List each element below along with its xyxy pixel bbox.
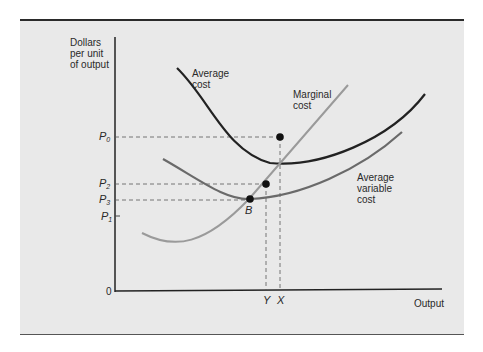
p2-label: P2 <box>99 178 110 192</box>
point-b <box>246 195 254 203</box>
x-axis <box>115 289 442 291</box>
p3-label: P3 <box>99 194 110 208</box>
x-tick-label: X <box>277 295 284 306</box>
marginal-cost-label: Marginal cost <box>293 89 331 111</box>
average-cost-label: Average cost <box>192 68 229 90</box>
p0-label: P0 <box>99 131 110 145</box>
point-y-p2 <box>262 180 270 188</box>
point-x-p0 <box>276 133 284 141</box>
y-axis-label: Dollars per unit of output <box>70 37 109 70</box>
x-axis-label: Output <box>414 298 444 309</box>
guide-lines <box>115 137 280 290</box>
p1-label: P1 <box>101 211 112 225</box>
origin-label: 0 <box>106 286 112 297</box>
y-tick-label: Y <box>263 295 270 306</box>
average-variable-cost-label: Average variable cost <box>357 172 394 205</box>
point-b-label: B <box>245 205 252 216</box>
